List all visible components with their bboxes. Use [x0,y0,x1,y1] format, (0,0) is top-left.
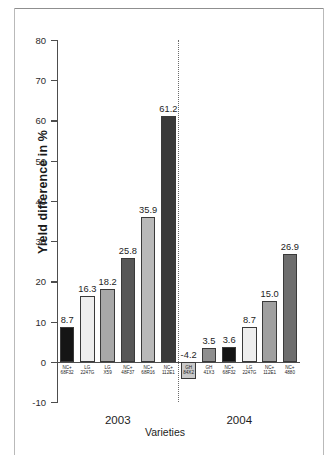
bar [141,217,156,361]
y-axis-tick-label: 10 [2,316,46,327]
y-axis-tick-label: 40 [2,195,46,206]
x-axis-title: Varieties [0,426,330,438]
bar [80,296,95,362]
bar-value-label: 61.2 [148,104,189,114]
bar [262,301,277,361]
y-axis-tick [51,362,58,363]
y-axis-tick [51,80,58,81]
bar [222,347,237,361]
y-axis-tick-label: 30 [2,236,46,247]
bar-value-label: 26.9 [270,242,311,252]
y-axis-tick-label: -10 [2,397,46,408]
y-axis-line [57,40,58,402]
y-axis-tick [51,40,58,41]
bar [100,289,115,362]
bar-category-line: 4880 [270,370,311,375]
year-group-divider [178,40,179,402]
y-axis-tick [51,201,58,202]
y-axis-tick-label: 60 [2,115,46,126]
year-group-label: 2004 [199,414,279,426]
bar [242,327,257,362]
bar [121,258,136,362]
bar-chart-figure: Yield difference in % 80706050403020100-… [0,0,330,455]
y-axis-tick [51,402,58,403]
bar [60,327,75,362]
y-axis-tick [51,120,58,121]
figure-page: Yield difference in % 80706050403020100-… [0,0,330,455]
y-axis-tick-label: 70 [2,75,46,86]
bar [161,116,176,362]
y-axis-tick-label: 20 [2,276,46,287]
bar [283,254,298,362]
y-axis-tick-label: 80 [2,35,46,46]
y-axis-tick [51,241,58,242]
y-axis-tick [51,161,58,162]
y-axis-tick [51,281,58,282]
year-group-label: 2003 [78,414,158,426]
y-axis-tick-label: 0 [2,356,46,367]
y-axis-tick-label: 50 [2,155,46,166]
bar-category-label: NC+4880 [270,365,311,376]
bar [202,348,217,362]
